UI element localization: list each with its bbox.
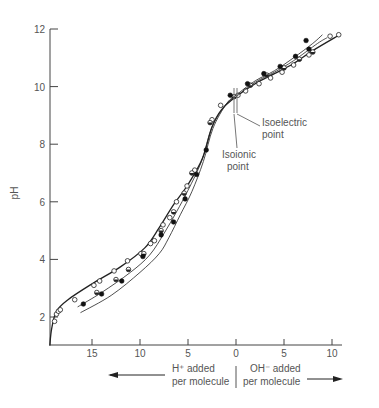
data-point-filled xyxy=(262,71,267,76)
x-tick-label: 15 xyxy=(86,348,98,359)
data-point-open xyxy=(167,215,172,220)
series-open xyxy=(50,32,341,345)
data-point-open xyxy=(174,200,179,205)
data-point-filled xyxy=(293,54,298,59)
y-tick-label: 4 xyxy=(39,254,45,265)
data-point-open xyxy=(218,103,223,108)
data-point-filled xyxy=(141,254,146,259)
data-point-open xyxy=(125,259,130,264)
data-point-open xyxy=(291,63,296,68)
series-half xyxy=(78,38,328,307)
oh-minus-label-2: per molecule xyxy=(243,376,301,387)
data-point-filled xyxy=(194,172,199,177)
isoionic-label-2: point xyxy=(227,161,249,172)
isoelectric-leader xyxy=(237,114,260,126)
series-group xyxy=(50,32,341,345)
right-arrow-icon xyxy=(333,376,343,382)
data-point-open xyxy=(161,223,166,228)
x-tick-label: 5 xyxy=(185,348,191,359)
series-curve xyxy=(78,38,328,307)
data-point-open xyxy=(52,319,57,324)
h-plus-direction: H⁺ added per molecule xyxy=(108,363,230,387)
data-point-open xyxy=(185,184,190,189)
left-arrow-icon xyxy=(108,372,118,378)
y-tick-label: 6 xyxy=(39,197,45,208)
data-point-filled xyxy=(204,148,209,153)
data-point-open xyxy=(72,297,77,302)
y-axis-label: pH xyxy=(9,187,20,200)
oh-minus-label-1: OH⁻ added xyxy=(250,363,301,374)
data-point-open xyxy=(336,32,341,37)
data-point-open xyxy=(112,269,117,274)
data-point-filled xyxy=(159,233,164,238)
x-tick-label: 10 xyxy=(326,348,338,359)
x-ticks: 151050510 xyxy=(86,339,338,359)
data-point-filled xyxy=(99,292,104,297)
h-plus-label-1: H⁺ added xyxy=(172,363,215,374)
data-point-filled xyxy=(171,220,176,225)
isoelectric-label-2: point xyxy=(262,129,284,140)
data-point-open xyxy=(92,283,97,288)
x-tick-label: 5 xyxy=(281,348,287,359)
data-point-open xyxy=(280,70,285,75)
data-point-filled xyxy=(228,93,233,98)
data-point-open xyxy=(97,279,102,284)
y-tick-label: 8 xyxy=(39,139,45,150)
data-point-filled xyxy=(278,64,283,69)
data-point-filled xyxy=(119,279,124,284)
isoionic-leader xyxy=(234,114,237,148)
y-tick-label: 10 xyxy=(34,82,46,93)
oh-minus-direction: OH⁻ added per molecule xyxy=(243,363,343,387)
data-point-open xyxy=(328,34,333,39)
x-tick-label: 10 xyxy=(134,348,146,359)
x-tick-label: 0 xyxy=(233,348,239,359)
isoionic-label-1: Isoionic xyxy=(222,149,256,160)
data-point-filled xyxy=(183,197,188,202)
h-plus-label-2: per molecule xyxy=(172,376,230,387)
isoelectric-label-1: Isoelectric xyxy=(262,117,307,128)
data-point-open xyxy=(152,238,157,243)
y-tick-label: 2 xyxy=(39,312,45,323)
data-point-filled xyxy=(245,81,250,86)
data-point-open xyxy=(58,308,63,313)
data-point-filled xyxy=(304,38,309,43)
series-curve xyxy=(50,35,340,346)
titration-chart: 24681012 151050510 pH Isoelectric point … xyxy=(0,0,379,408)
data-point-filled xyxy=(81,302,86,307)
data-point-filled xyxy=(307,47,312,52)
y-tick-label: 12 xyxy=(34,24,46,35)
data-point-open xyxy=(257,81,262,86)
y-ticks: 24681012 xyxy=(34,24,58,323)
